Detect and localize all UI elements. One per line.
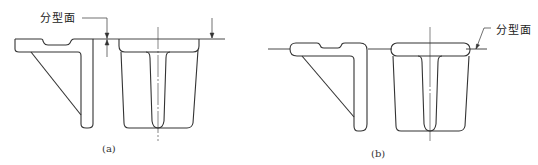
label-leader-a (82, 18, 107, 57)
parting-surface-label-b: 分型面 (496, 21, 532, 37)
arrow-icon (210, 33, 214, 38)
bracket-rib-a (31, 52, 81, 115)
bracket-rib-b (302, 56, 354, 117)
cup-flange-b (391, 43, 470, 56)
bracket-part-a (15, 39, 94, 128)
cup-body-a (121, 50, 198, 128)
casting-diagram (0, 0, 538, 165)
parting-surface-label-a: 分型面 (40, 9, 76, 25)
arrow-icon (476, 44, 480, 49)
caption-b: (b) (371, 148, 385, 159)
figure-a-drawing (15, 18, 225, 141)
figure-b-drawing (268, 27, 491, 141)
cup-body-b (393, 56, 469, 131)
cup-flange-a (119, 39, 199, 52)
caption-a: (a) (102, 143, 116, 154)
